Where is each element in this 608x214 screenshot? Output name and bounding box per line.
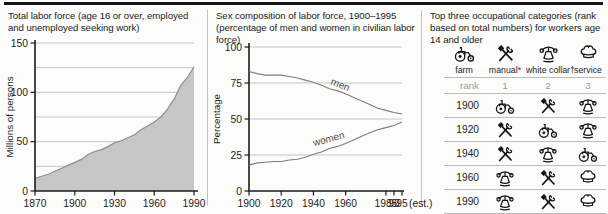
crossed-tools-icon [495, 144, 515, 164]
total-labor-force-area-chart: 05010015018701900193019601990Millions of… [4, 33, 206, 213]
tractor-icon [454, 43, 475, 64]
x-tick-label: 1940 [302, 198, 325, 209]
x-tick-label: 1930 [103, 198, 126, 209]
telephone-icon [578, 96, 598, 116]
x-tick-label: 1900 [63, 198, 86, 209]
legend-label-farm: farm [444, 65, 484, 75]
y-axis-title: Percentage [211, 93, 222, 144]
occupations-table: farmmanual*white collar†servicerank12319… [444, 42, 606, 214]
rank-cell-white_collar [570, 120, 606, 140]
rank-cell-white_collar [484, 168, 526, 188]
year-label: 1990 [444, 196, 484, 207]
y-tick-label: 75 [231, 78, 243, 89]
y-axis-title: Millions of persons [4, 76, 15, 157]
telephone-icon [538, 43, 559, 64]
top-rule [4, 2, 603, 5]
legend-label-service: service [570, 65, 606, 75]
men-series-label: men [329, 76, 351, 93]
y-tick-label: 100 [225, 42, 242, 53]
rank-cell-manual [526, 96, 570, 116]
y-tick-label: 50 [231, 114, 243, 125]
telephone-icon [495, 168, 515, 188]
occupation-year-row: 1940 [444, 142, 606, 166]
x-tick-label: 1870 [24, 198, 47, 209]
rank-cell-white_collar [570, 96, 606, 116]
x-tick-label: 1960 [334, 198, 357, 209]
year-label: 1960 [444, 172, 484, 183]
x-tick-label: 95 [396, 198, 408, 209]
rank-cell-service [570, 168, 606, 188]
crossed-tools-icon [538, 192, 558, 212]
tractor-icon [578, 144, 598, 164]
legend-white_collar: white collar† [526, 43, 570, 75]
occupation-year-row: 1990 [444, 190, 606, 214]
year-label: 1940 [444, 148, 484, 159]
legend-label-white_collar: white collar† [526, 65, 570, 75]
rank-cell-farm [484, 96, 526, 116]
rank-cell-service [570, 192, 606, 212]
rank-number: 2 [526, 80, 570, 91]
occupation-year-row: 1960 [444, 166, 606, 190]
y-tick-label: 150 [11, 38, 28, 49]
rank-cell-manual [526, 168, 570, 188]
tractor-icon [495, 96, 515, 116]
year-label: 1900 [444, 100, 484, 111]
labor-force-figure: Total labor force (age 16 or over, emplo… [0, 0, 608, 214]
y-tick-label: 25 [231, 150, 243, 161]
rank-number: 1 [484, 80, 526, 91]
rank-number: 3 [570, 80, 606, 91]
occupations-table-title: Top three occupational categories (rank … [430, 10, 606, 46]
x-axis-estimate-label: (est.) [409, 198, 432, 209]
rank-label: rank [444, 80, 484, 91]
legend-farm: farm [444, 43, 484, 75]
chef-hat-icon [578, 43, 599, 64]
x-tick-label: 1990 [183, 198, 206, 209]
rank-cell-manual [484, 144, 526, 164]
telephone-icon [495, 192, 515, 212]
occupations-legend-row: farmmanual*white collar†service [444, 42, 606, 78]
x-tick-label: 1900 [238, 198, 261, 209]
telephone-icon [578, 120, 598, 140]
y-tick-label: 0 [236, 186, 242, 197]
telephone-icon [538, 144, 558, 164]
year-label: 1920 [444, 124, 484, 135]
labor-force-chart-title: Total labor force (age 16 or over, emplo… [8, 10, 202, 34]
tractor-icon [538, 120, 558, 140]
crossed-tools-icon [538, 96, 558, 116]
chef-hat-icon [578, 168, 598, 188]
occupation-year-row: 1920 [444, 118, 606, 142]
sex-composition-line-chart: 0255075100190019201940196019859095(est.)… [208, 33, 426, 213]
legend-service: service [570, 43, 606, 75]
rank-cell-farm [526, 120, 570, 140]
men-line [249, 72, 402, 115]
rank-cell-farm [570, 144, 606, 164]
y-tick-label: 50 [17, 136, 29, 147]
x-tick-label: 1920 [270, 198, 293, 209]
legend-manual: manual* [484, 43, 526, 75]
y-tick-label: 0 [22, 186, 28, 197]
crossed-tools-icon [538, 168, 558, 188]
rank-header-row: rank123 [444, 78, 606, 94]
occupation-year-row: 1900 [444, 94, 606, 118]
legend-label-manual: manual* [484, 65, 526, 75]
chef-hat-icon [578, 192, 598, 212]
rank-cell-white_collar [526, 144, 570, 164]
rank-cell-white_collar [484, 192, 526, 212]
crossed-tools-icon [495, 43, 516, 64]
labor-force-area [35, 67, 194, 191]
x-tick-label: 1960 [143, 198, 166, 209]
rank-cell-manual [484, 120, 526, 140]
crossed-tools-icon [495, 120, 515, 140]
rank-cell-manual [526, 192, 570, 212]
